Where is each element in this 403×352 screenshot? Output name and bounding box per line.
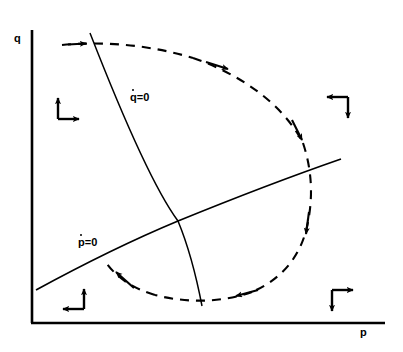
orbit-arrow-top-left [68,44,86,45]
p-dot-nullcline-label: p=0 [78,237,97,248]
quadrant-arrow-top-right [327,97,348,118]
p-dot-nullcline-curve [36,159,341,290]
quadrant-arrow-bottom-left [63,289,84,309]
p-dot-equals-zero: =0 [85,236,98,248]
quadrant-arrow-top-left [58,98,79,119]
orbit-arrow-bottom-right [236,290,258,296]
q-dot-equals-zero: =0 [137,91,150,103]
x-axis-label: p [360,327,367,338]
q-dot-nullcline-curve [90,33,202,306]
phase-plane-canvas [0,0,403,352]
axes-group [31,30,385,323]
phase-diagram-figure: q p q=0 p=0 [0,0,403,352]
orbit-arrow-right-lower [306,212,309,234]
orbit-arrow-bottom-left [116,272,134,288]
orbit-arrow-top-right [206,62,228,69]
closed-orbit-trajectory [62,44,311,301]
orbit-arrow-right-upper [292,120,302,140]
quadrant-arrow-bottom-right [332,290,353,311]
y-axis-label: q [14,33,21,44]
q-dot-symbol: q [130,92,137,103]
q-dot-nullcline-label: q=0 [130,92,149,103]
p-dot-symbol: p [78,237,85,248]
trajectory-direction-arrows [68,44,309,297]
